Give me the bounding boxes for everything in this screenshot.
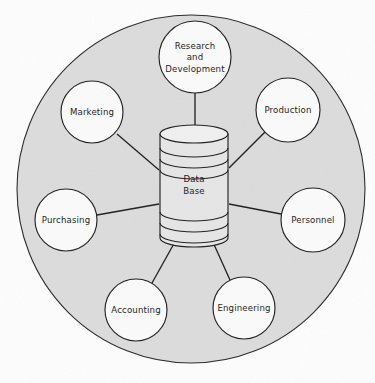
paper-grain-overlay — [0, 0, 375, 383]
diagram-canvas: DataBase ResearchandDevelopmentProductio… — [0, 0, 375, 383]
database-hub-diagram: DataBase ResearchandDevelopmentProductio… — [0, 0, 375, 383]
